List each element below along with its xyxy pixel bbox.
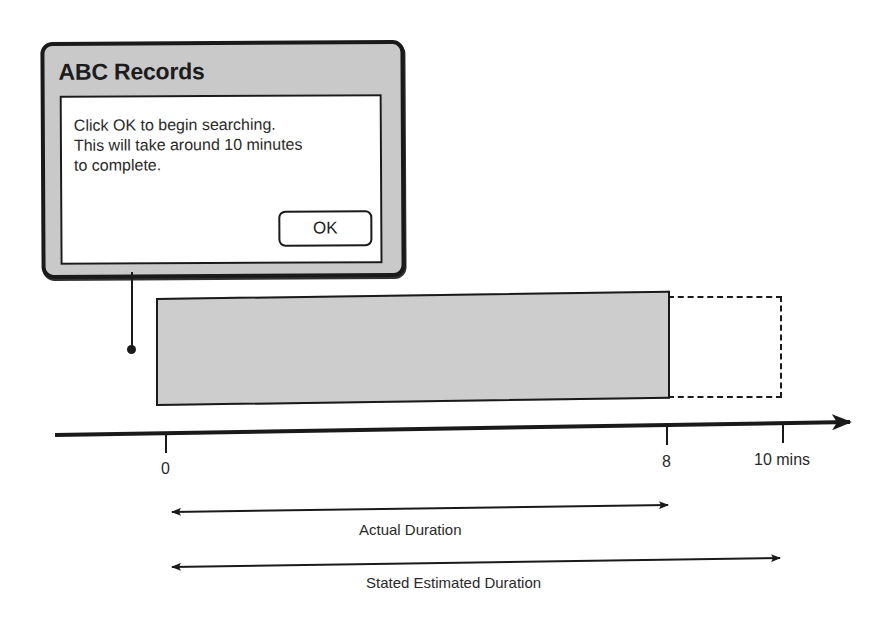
tick-label-8: 8: [662, 453, 671, 471]
actual-duration-arrow: [172, 505, 668, 512]
stated-duration-label: Stated Estimated Duration: [366, 574, 541, 591]
tick-label-0: 0: [161, 460, 170, 478]
stated-duration-arrow: [172, 558, 780, 567]
actual-duration-label: Actual Duration: [359, 521, 462, 538]
time-axis: [55, 422, 850, 435]
tick-label-10: 10 mins: [754, 451, 810, 469]
